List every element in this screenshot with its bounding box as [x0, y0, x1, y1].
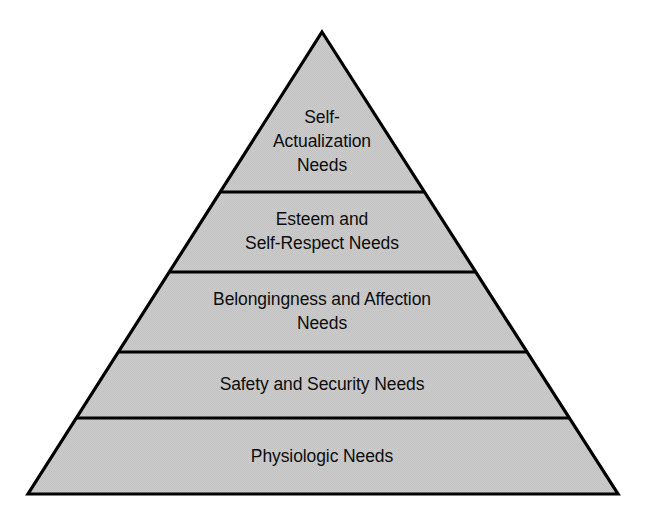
pyramid-graphic — [0, 0, 646, 515]
pyramid-diagram: Self- Actualization Needs Esteem and Sel… — [0, 0, 646, 515]
pyramid-outline — [28, 32, 618, 494]
